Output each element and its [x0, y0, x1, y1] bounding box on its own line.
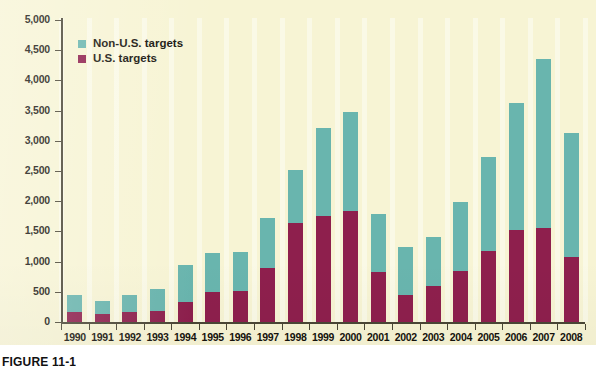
bar-segment-non-us-2000 [343, 112, 358, 211]
x-axis-tick [254, 324, 255, 330]
bar-segment-us-2006 [509, 230, 524, 322]
bar-segment-non-us-1997 [260, 218, 275, 268]
y-axis-tick [55, 80, 62, 81]
x-axis-tick [557, 324, 558, 330]
y-axis-tick-label: 3,000 [0, 135, 50, 146]
y-axis-tick [55, 292, 62, 293]
bar-segment-us-1997 [260, 268, 275, 322]
bar-segment-us-1996 [233, 291, 248, 322]
legend-swatch-non-us-icon [78, 40, 86, 48]
x-axis-tick-label-2002: 2002 [392, 332, 420, 343]
x-axis-tick-label-1999: 1999 [309, 332, 337, 343]
x-axis-tick [364, 324, 365, 330]
y-axis-tick-label: 4,500 [0, 44, 50, 55]
figure-caption: FIGURE 11-1 [2, 355, 76, 369]
y-axis-tick-label: 2,000 [0, 195, 50, 206]
y-axis-tick-label: 3,500 [0, 105, 50, 116]
y-axis-tick [55, 111, 62, 112]
legend-label-us: U.S. targets [93, 53, 157, 65]
y-axis-tick-label: 1,500 [0, 225, 50, 236]
chart-plot-area: 05001,0001,5002,0002,5003,0003,5004,0004… [0, 0, 596, 345]
bar-1990 [67, 295, 82, 322]
bar-1992 [122, 295, 137, 322]
bar-segment-non-us-1996 [233, 252, 248, 291]
bar-segment-us-2000 [343, 211, 358, 322]
bar-2008 [564, 133, 579, 322]
bar-segment-us-2002 [398, 295, 413, 322]
bar-segment-non-us-1998 [288, 170, 303, 223]
bar-segment-non-us-2004 [453, 202, 468, 271]
bar-2002 [398, 247, 413, 322]
y-axis-tick [55, 50, 62, 51]
bar-segment-us-2003 [426, 286, 441, 322]
bar-segment-non-us-2006 [509, 103, 524, 229]
chart-legend: Non-U.S. targets U.S. targets [78, 36, 183, 66]
bar-segment-us-1994 [178, 302, 193, 322]
bar-segment-us-2007 [536, 228, 551, 322]
bar-1994 [178, 265, 193, 322]
x-axis-tick-label-1994: 1994 [171, 332, 199, 343]
bar-segment-us-1990 [67, 312, 82, 322]
y-axis-tick-label: 0 [0, 316, 50, 327]
x-axis-tick-label-2000: 2000 [337, 332, 365, 343]
x-axis-tick-label-1998: 1998 [282, 332, 310, 343]
y-axis-tick [55, 141, 62, 142]
bar-segment-us-2004 [453, 271, 468, 322]
x-axis-tick-label-1996: 1996 [226, 332, 254, 343]
x-axis-tick-label-2005: 2005 [475, 332, 503, 343]
legend-entry-non-us: Non-U.S. targets [78, 36, 183, 51]
bar-segment-non-us-1999 [316, 128, 331, 217]
x-axis-tick-label-2006: 2006 [502, 332, 530, 343]
x-axis-tick [502, 324, 503, 330]
x-axis-tick [309, 324, 310, 330]
figure-caption-area: FIGURE 11-1 [0, 345, 596, 371]
bar-1993 [150, 289, 165, 322]
bar-segment-non-us-1993 [150, 289, 165, 311]
bar-segment-us-1999 [316, 216, 331, 322]
y-axis-tick [55, 171, 62, 172]
legend-label-non-us: Non-U.S. targets [93, 38, 183, 50]
x-axis-tick-label-1995: 1995 [199, 332, 227, 343]
bar-2003 [426, 237, 441, 322]
x-axis-tick-label-1991: 1991 [89, 332, 117, 343]
y-axis-tick-label: 5,000 [0, 14, 50, 25]
bar-segment-us-2008 [564, 257, 579, 322]
x-axis-tick [61, 324, 62, 330]
bar-2006 [509, 103, 524, 322]
bar-segment-non-us-2005 [481, 157, 496, 251]
y-axis-tick [55, 262, 62, 263]
bar-1999 [316, 128, 331, 322]
bar-segment-us-1995 [205, 292, 220, 322]
x-axis-tick [337, 324, 338, 330]
bar-2005 [481, 157, 496, 322]
bar-segment-non-us-1994 [178, 265, 193, 302]
y-axis-tick [55, 201, 62, 202]
x-axis-tick-label-1997: 1997 [254, 332, 282, 343]
x-axis-tick [199, 324, 200, 330]
x-axis-tick [530, 324, 531, 330]
x-axis-tick [475, 324, 476, 330]
figure-root: 05001,0001,5002,0002,5003,0003,5004,0004… [0, 0, 596, 371]
y-axis-tick [55, 231, 62, 232]
y-axis-tick-label: 2,500 [0, 165, 50, 176]
x-axis-tick [585, 324, 586, 330]
x-axis-tick-label-2007: 2007 [530, 332, 558, 343]
bar-1998 [288, 170, 303, 322]
bar-segment-non-us-1992 [122, 295, 137, 313]
bar-segment-non-us-2001 [371, 214, 386, 272]
bar-segment-non-us-2002 [398, 247, 413, 295]
y-axis-tick-label: 1,000 [0, 256, 50, 267]
x-axis-tick-label-1993: 1993 [144, 332, 172, 343]
x-axis-tick-label-2003: 2003 [420, 332, 448, 343]
bar-segment-us-2001 [371, 272, 386, 322]
y-axis-tick [55, 20, 62, 21]
bar-segment-non-us-1995 [205, 253, 220, 292]
y-axis-tick [55, 322, 62, 323]
bar-segment-us-2005 [481, 251, 496, 322]
x-axis-tick [116, 324, 117, 330]
bar-segment-us-1991 [95, 314, 110, 322]
x-axis-tick [226, 324, 227, 330]
bar-segment-non-us-1991 [95, 301, 110, 314]
bar-2001 [371, 214, 386, 322]
x-axis-tick [420, 324, 421, 330]
